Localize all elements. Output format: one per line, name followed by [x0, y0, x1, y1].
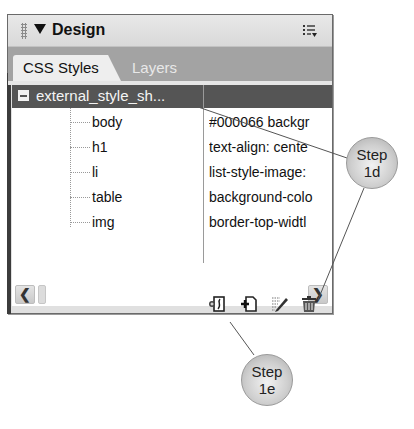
scroll-left-button[interactable]: ❮	[15, 285, 35, 304]
rule-row-table[interactable]: table background-colo	[12, 186, 332, 210]
step-1d-callout: Step 1d	[346, 137, 398, 189]
scroll-thumb[interactable]	[38, 285, 46, 304]
panel-title[interactable]: Design	[34, 21, 105, 39]
triangle-down-icon[interactable]	[34, 24, 46, 34]
css-rules-tree[interactable]: external_style_sh... body #000066 backgr…	[12, 85, 332, 282]
tree-branch	[70, 122, 90, 123]
rule-selector: table	[92, 189, 122, 205]
panel-header[interactable]: Design	[8, 15, 332, 47]
rule-selector: li	[92, 164, 98, 180]
tree-branch	[70, 172, 90, 173]
tab-bar: CSS Styles Layers	[8, 47, 332, 85]
rule-row-body[interactable]: body #000066 backgr	[12, 111, 332, 135]
rule-properties: #000066 backgr	[209, 114, 331, 130]
rule-properties: background-colo	[209, 189, 331, 205]
rule-properties: text-align: cente	[209, 139, 331, 155]
step-1e-line2: 1e	[242, 380, 292, 397]
minus-box-icon[interactable]	[18, 90, 29, 101]
stylesheet-row-selected[interactable]: external_style_sh...	[12, 85, 332, 108]
step-1d-line2: 1d	[347, 163, 397, 180]
step-1e-line1: Step	[242, 363, 292, 380]
panel-options-icon[interactable]	[302, 24, 318, 38]
step-1e-callout: Step 1e	[241, 354, 293, 406]
rule-selector: body	[92, 114, 122, 130]
css-styles-panel: Design CSS Styles Layers external_style_…	[7, 14, 333, 314]
step-1d-line1: Step	[347, 146, 397, 163]
drag-grip-icon[interactable]	[21, 23, 27, 39]
tree-branch	[70, 197, 90, 198]
tab-layers[interactable]: Layers	[122, 55, 187, 81]
new-css-rule-icon[interactable]	[240, 295, 258, 313]
edit-style-icon[interactable]	[271, 295, 289, 313]
rule-properties: border-top-widtl	[209, 214, 331, 230]
rule-row-li[interactable]: li list-style-image:	[12, 161, 332, 185]
tree-branch	[70, 222, 90, 223]
rule-row-img[interactable]: img border-top-widtl	[12, 211, 332, 235]
rule-selector: h1	[92, 139, 108, 155]
rule-row-h1[interactable]: h1 text-align: cente	[12, 136, 332, 160]
panel-title-label: Design	[52, 21, 105, 38]
trash-icon[interactable]	[300, 295, 318, 313]
attach-stylesheet-icon[interactable]	[208, 295, 226, 313]
tree-branch	[70, 147, 90, 148]
rule-properties: list-style-image:	[209, 164, 331, 180]
rule-selector: img	[92, 214, 115, 230]
tab-css-styles[interactable]: CSS Styles	[13, 55, 121, 81]
stylesheet-name: external_style_sh...	[36, 87, 165, 104]
